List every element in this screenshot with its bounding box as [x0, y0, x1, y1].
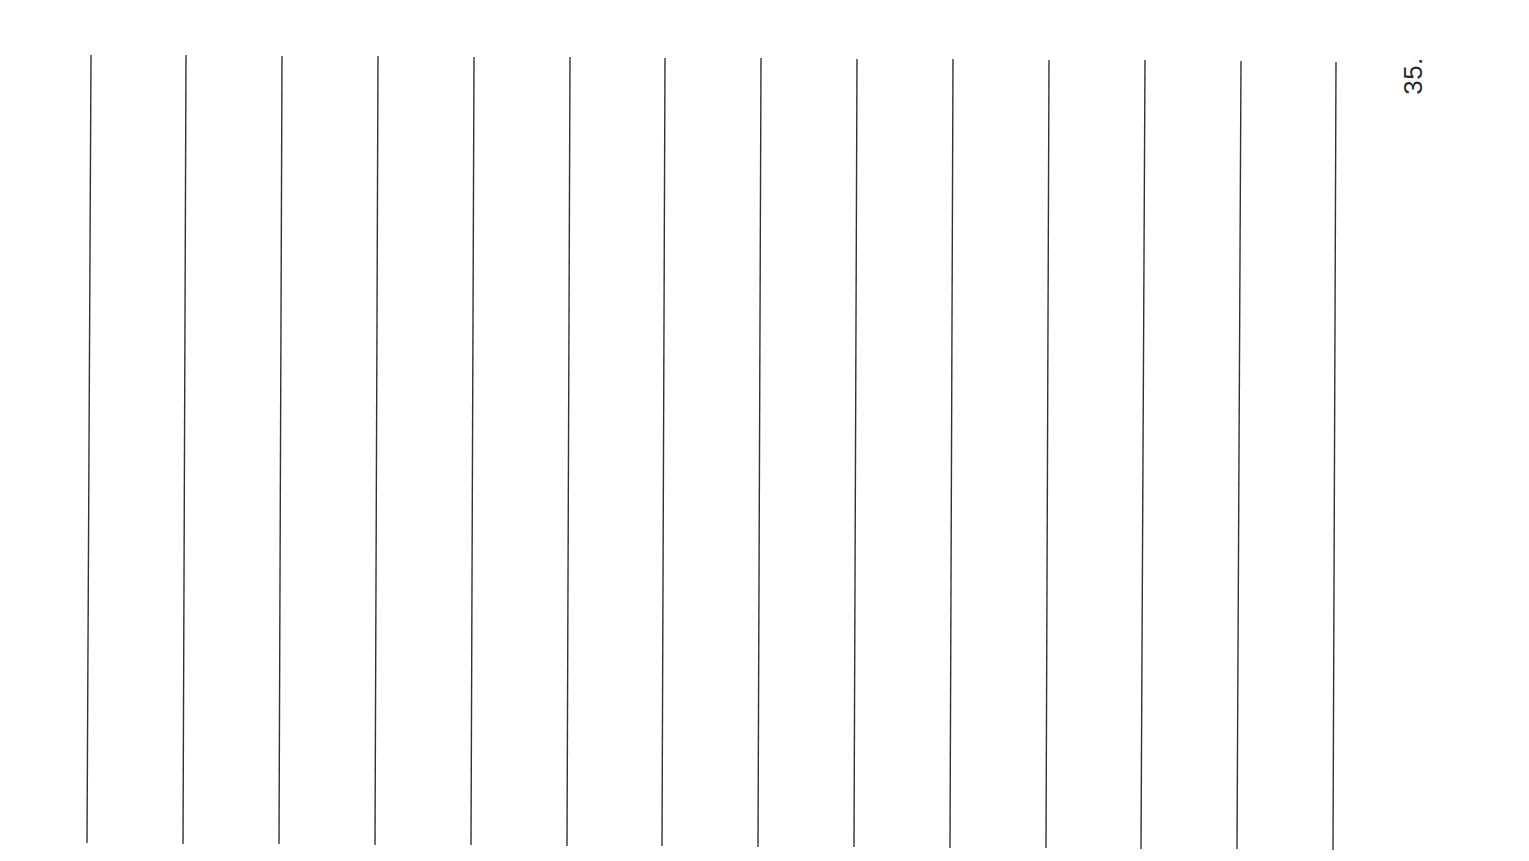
ruled-lines — [0, 0, 1529, 861]
ruled-line-8 — [758, 58, 761, 847]
ruled-line-14 — [1333, 62, 1336, 850]
ruled-line-7 — [662, 58, 665, 846]
ruled-line-9 — [854, 59, 857, 847]
ruled-line-2 — [183, 55, 186, 844]
ruled-line-4 — [375, 56, 378, 845]
ruled-line-10 — [950, 59, 953, 848]
ruled-line-6 — [567, 57, 570, 846]
ruled-line-5 — [471, 57, 474, 845]
ruled-page: 35. — [0, 0, 1529, 861]
ruled-line-12 — [1141, 60, 1145, 849]
ruled-line-13 — [1237, 61, 1241, 849]
ruled-line-3 — [279, 56, 282, 844]
ruled-line-1 — [87, 55, 91, 843]
page-number: 35. — [1398, 57, 1429, 95]
ruled-line-11 — [1046, 60, 1049, 848]
